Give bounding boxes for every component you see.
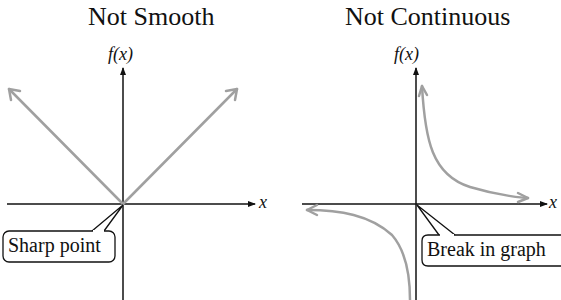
callout-sharp-point-pointer: [92, 205, 123, 231]
callout-break-pointer: [417, 205, 455, 235]
callout-break-in-graph: Break in graph: [427, 238, 546, 261]
callout-sharp-point: Sharp point: [8, 234, 101, 257]
hyperbola-curve: [307, 86, 528, 300]
